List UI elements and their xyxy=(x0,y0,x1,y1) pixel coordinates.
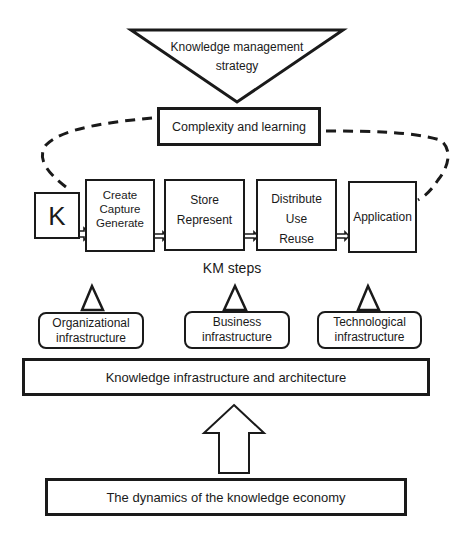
org-infra-line-2: infrastructure xyxy=(52,331,129,346)
tech-infrastructure-box: Technological infrastructure xyxy=(317,311,422,349)
step-create-line-3: Generate xyxy=(87,216,153,230)
step-distribute-line-1: Distribute xyxy=(258,189,335,209)
economy-label: The dynamics of the knowledge economy xyxy=(106,490,345,505)
step-distribute-line-2: Use xyxy=(258,209,335,229)
business-support-triangle xyxy=(224,286,246,310)
org-infrastructure-box: Organizational infrastructure xyxy=(38,312,144,349)
business-infra-line-1: Business xyxy=(202,315,272,330)
step-store-box: Store Represent xyxy=(164,179,245,251)
step-create-line-1: Create xyxy=(87,188,153,202)
up-arrow xyxy=(204,405,264,473)
step-store-line-2: Represent xyxy=(166,210,243,230)
complexity-learning-box: Complexity and learning xyxy=(157,107,321,146)
architecture-box: Knowledge infrastructure and architectur… xyxy=(22,358,430,396)
step-store-line-1: Store xyxy=(166,190,243,210)
org-infra-line-1: Organizational xyxy=(52,316,129,331)
km-steps-caption: KM steps xyxy=(182,259,282,277)
k-symbol: K xyxy=(48,203,65,229)
tech-support-triangle xyxy=(358,286,379,310)
step-distribute-box: Distribute Use Reuse xyxy=(256,179,337,251)
business-infrastructure-box: Business infrastructure xyxy=(184,311,290,349)
tech-infra-line-2: infrastructure xyxy=(333,330,406,345)
knowledge-k-box: K xyxy=(34,192,80,239)
step-distribute-line-3: Reuse xyxy=(258,229,335,249)
strategy-line-2: strategy xyxy=(150,57,324,76)
step-create-box: Create Capture Generate xyxy=(85,179,155,252)
strategy-line-1: Knowledge management xyxy=(150,38,324,57)
step-create-line-2: Capture xyxy=(87,202,153,216)
step-application-box: Application xyxy=(348,181,417,253)
org-support-triangle xyxy=(82,286,103,310)
business-infra-line-2: infrastructure xyxy=(202,330,272,345)
architecture-label: Knowledge infrastructure and architectur… xyxy=(106,370,347,385)
step-application-label: Application xyxy=(353,210,412,224)
strategy-label: Knowledge management strategy xyxy=(150,38,324,76)
complexity-label: Complexity and learning xyxy=(172,120,306,134)
tech-infra-line-1: Technological xyxy=(333,315,406,330)
economy-box: The dynamics of the knowledge economy xyxy=(45,478,407,516)
